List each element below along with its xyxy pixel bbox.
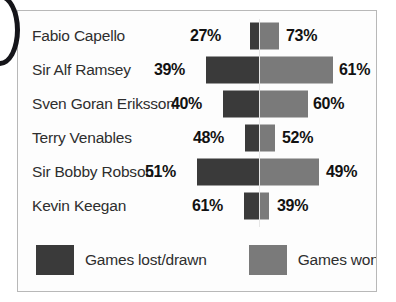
- value-games-lost-drawn: 40%: [171, 95, 202, 113]
- bar-games-lost-drawn: [197, 159, 259, 186]
- legend-swatch-lost-drawn: [36, 245, 74, 275]
- value-games-lost-drawn: 48%: [193, 129, 224, 147]
- value-games-lost-drawn: 51%: [145, 163, 176, 181]
- row-label: Fabio Capello: [32, 27, 125, 45]
- bar-games-won: [259, 91, 308, 118]
- chart-row: Sir Bobby Robson51%49%: [18, 155, 376, 189]
- value-games-won: 39%: [277, 197, 308, 215]
- chart-row: Sven Goran Eriksson40%60%: [18, 87, 376, 121]
- chart-center-axis-line: [259, 19, 260, 227]
- bar-games-lost-drawn: [206, 57, 259, 84]
- row-label: Kevin Keegan: [32, 197, 126, 215]
- bar-games-won: [259, 57, 333, 84]
- row-label: Sven Goran Eriksson: [32, 95, 175, 113]
- bar-games-lost-drawn: [245, 125, 259, 152]
- row-label: Sir Bobby Robson: [32, 163, 154, 181]
- legend-item-won: Games won: [249, 245, 377, 275]
- value-games-lost-drawn: 27%: [190, 27, 221, 45]
- chart-row: Fabio Capello27%73%: [18, 19, 376, 53]
- value-games-won: 73%: [286, 27, 317, 45]
- row-label: Sir Alf Ramsey: [32, 61, 131, 79]
- bar-games-lost-drawn: [244, 193, 259, 220]
- legend-label-lost-drawn: Games lost/drawn: [85, 251, 207, 269]
- legend-swatch-won: [249, 245, 287, 275]
- legend-item-lost-drawn: Games lost/drawn: [36, 245, 207, 275]
- value-games-won: 61%: [339, 61, 370, 79]
- value-games-won: 60%: [313, 95, 344, 113]
- value-games-won: 49%: [326, 163, 357, 181]
- chart-legend: Games lost/drawn Games won: [18, 245, 376, 275]
- value-games-lost-drawn: 39%: [154, 61, 185, 79]
- legend-label-won: Games won: [298, 251, 377, 269]
- value-games-lost-drawn: 61%: [192, 197, 223, 215]
- bar-games-won: [259, 159, 319, 186]
- bar-games-lost-drawn: [250, 23, 259, 50]
- value-games-won: 52%: [282, 129, 313, 147]
- chart-row: Sir Alf Ramsey39%61%: [18, 53, 376, 87]
- chart-panel: Fabio Capello27%73%Sir Alf Ramsey39%61%S…: [17, 10, 377, 292]
- bar-games-won: [259, 125, 275, 152]
- chart-row: Kevin Keegan61%39%: [18, 189, 376, 223]
- chart-rows: Fabio Capello27%73%Sir Alf Ramsey39%61%S…: [18, 11, 376, 223]
- bar-games-won: [259, 23, 279, 50]
- row-label: Terry Venables: [32, 129, 132, 147]
- bar-games-lost-drawn: [223, 91, 259, 118]
- chart-row: Terry Venables48%52%: [18, 121, 376, 155]
- bar-games-won: [259, 193, 269, 220]
